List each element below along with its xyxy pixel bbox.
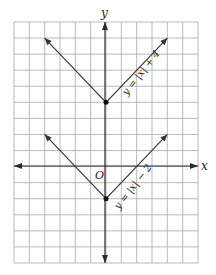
vertex-point: [104, 196, 109, 201]
y-axis-label: y: [100, 6, 108, 20]
x-axis-right-arrow-icon: [190, 163, 198, 169]
grid: [14, 22, 198, 263]
upper-curve-label: y = |x| + 4: [119, 48, 162, 99]
y-axis-down-arrow-icon: [102, 255, 108, 263]
origin-label: O: [95, 169, 104, 182]
x-axis-left-arrow-icon: [14, 163, 22, 169]
y-axis-up-arrow-icon: [102, 22, 108, 30]
lower-curve-label: y = |x| − 2: [111, 162, 154, 213]
vertex-point: [104, 100, 109, 105]
y-axis: [102, 22, 108, 263]
x-axis-label: x: [201, 159, 208, 173]
coordinate-plane: x y O y = |x| + 4 y = |x| − 2: [0, 0, 216, 275]
